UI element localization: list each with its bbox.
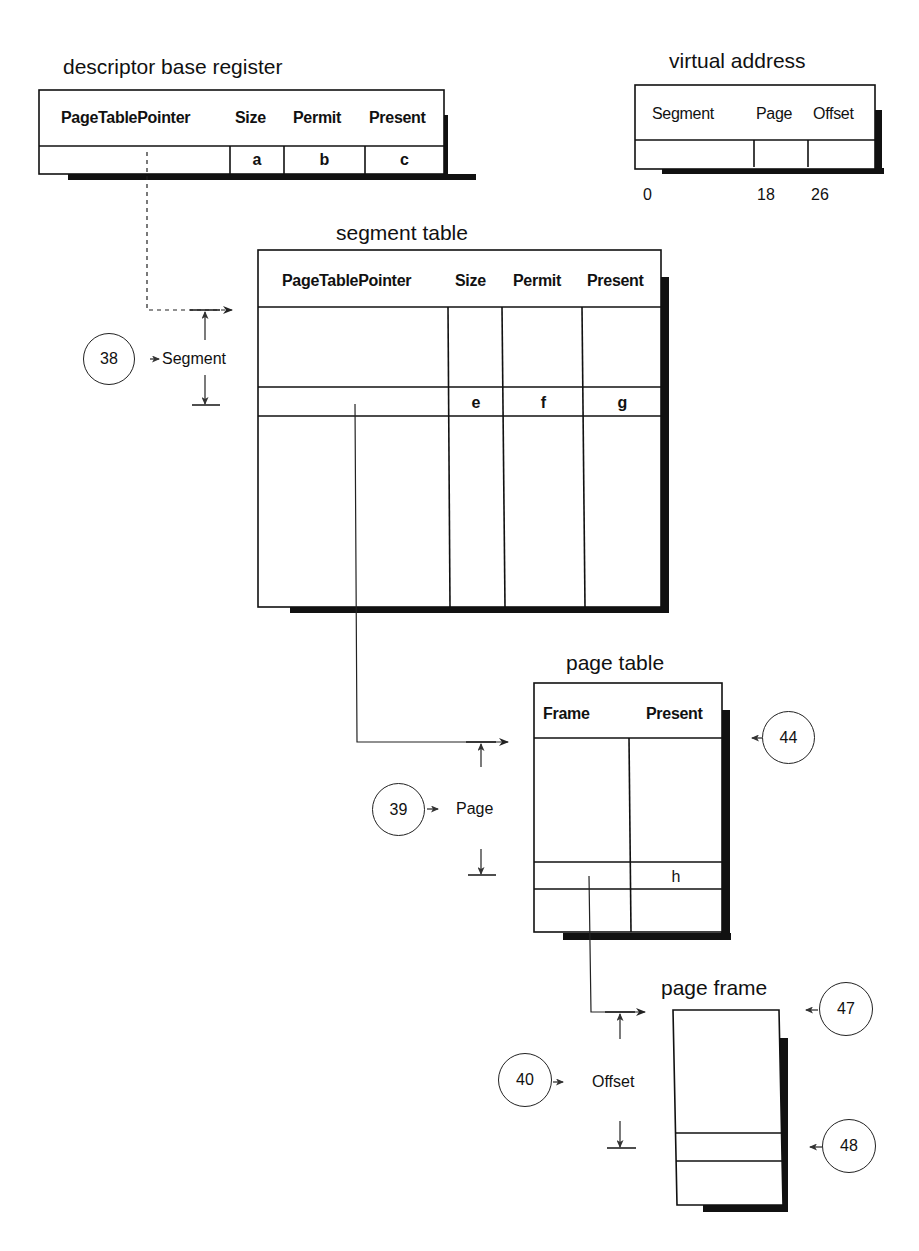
dbr-header-size: Size (235, 110, 266, 126)
va-bit-26: 26 (811, 187, 829, 203)
descriptor-base-register-title: descriptor base register (63, 56, 282, 77)
callout-40: 40 (498, 1053, 552, 1107)
seg-header-size: Size (455, 273, 486, 289)
page-table-title: page table (566, 652, 664, 673)
diagram-lines (0, 0, 919, 1251)
callout-38: 38 (83, 333, 135, 385)
callout-44: 44 (762, 711, 815, 764)
va-header-offset: Offset (813, 106, 854, 122)
offset-index-label: Offset (592, 1074, 634, 1090)
pt-cell-present: h (630, 869, 722, 885)
dbr-header-present: Present (369, 110, 426, 126)
virtual-address-title: virtual address (669, 50, 806, 71)
dbr-header-permit: Permit (293, 110, 341, 126)
callout-48-label: 48 (840, 1137, 858, 1155)
pt-header-frame: Frame (543, 706, 590, 722)
dbr-cell-permit: b (284, 152, 365, 168)
dbr-header-pagetablepointer: PageTablePointer (61, 110, 190, 126)
callout-44-label: 44 (780, 729, 798, 747)
dbr-cell-size: a (230, 152, 284, 168)
virtual-address-box (635, 85, 884, 174)
pt-header-present: Present (646, 706, 703, 722)
callout-39: 39 (372, 783, 425, 836)
page-frame-box (673, 1010, 788, 1212)
callout-40-label: 40 (516, 1071, 534, 1089)
callout-39-label: 39 (390, 801, 408, 819)
seg-cell-size: e (449, 395, 503, 411)
page-frame-title: page frame (661, 977, 767, 998)
seg-header-present: Present (587, 273, 644, 289)
seg-cell-present: g (584, 395, 661, 411)
callout-38-label: 38 (100, 350, 118, 368)
seg-cell-permit: f (504, 395, 583, 411)
seg-header-permit: Permit (513, 273, 561, 289)
va-bit-18: 18 (757, 187, 775, 203)
va-header-segment: Segment (652, 106, 714, 122)
page-index-label: Page (456, 801, 493, 817)
va-bit-0: 0 (643, 187, 652, 203)
va-header-page: Page (756, 106, 792, 122)
callout-47-label: 47 (837, 1000, 855, 1018)
callout-47: 47 (819, 982, 873, 1036)
callout-48: 48 (822, 1119, 876, 1173)
segment-index-label: Segment (162, 351, 226, 367)
segment-table-box (258, 250, 669, 613)
segment-table-title: segment table (336, 222, 468, 243)
dbr-cell-present: c (365, 152, 444, 168)
seg-header-pagetablepointer: PageTablePointer (282, 273, 411, 289)
